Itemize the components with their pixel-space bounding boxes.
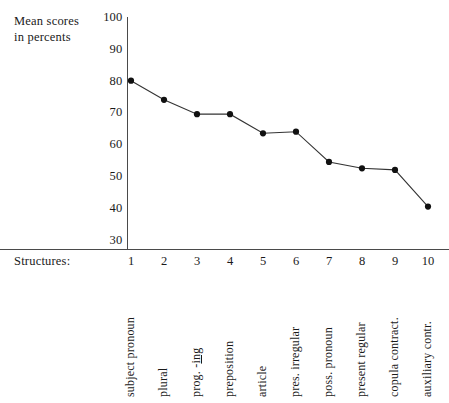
x-axis-tick-label: 8: [350, 255, 374, 268]
data-point: [194, 111, 200, 117]
x-axis-tick-label: 3: [185, 255, 209, 268]
y-axis-tick-label: 40: [97, 202, 123, 215]
x-axis-title: Structures:: [14, 255, 70, 268]
category-label: present regular: [355, 322, 367, 397]
data-point: [293, 129, 299, 135]
x-axis-tick-label: 7: [317, 255, 341, 268]
x-axis-tick-label: 1: [119, 255, 143, 268]
x-axis-tick-label: 9: [383, 255, 407, 268]
x-axis-tick-label: 4: [218, 255, 242, 268]
category-label: subject pronoun: [124, 317, 136, 397]
x-axis-tick-label: 6: [284, 255, 308, 268]
y-axis-tick-label: 100: [97, 11, 123, 24]
data-point: [326, 159, 332, 165]
y-axis-tick-label: 30: [97, 234, 123, 247]
category-label: poss. pronoun: [322, 327, 334, 397]
y-axis-tick-label: 70: [97, 106, 123, 119]
category-label: copula contract.: [388, 317, 400, 397]
category-label: plural: [157, 368, 169, 397]
category-label: article: [256, 366, 268, 397]
data-point: [359, 165, 365, 171]
data-point: [161, 97, 167, 103]
x-axis-tick-label: 10: [416, 255, 440, 268]
series-markers: [128, 78, 431, 210]
y-axis-tick-label: 50: [97, 170, 123, 183]
x-axis-tick-label: 2: [152, 255, 176, 268]
data-point: [425, 203, 431, 209]
category-label: preposition: [223, 341, 235, 397]
y-axis-tick-label: 80: [97, 75, 123, 88]
y-axis-tick-label: 60: [97, 138, 123, 151]
data-point: [392, 167, 398, 173]
x-axis-tick-label: 5: [251, 255, 275, 268]
category-label: auxiliary contr.: [421, 321, 433, 397]
y-axis-tick-label: 90: [97, 43, 123, 56]
line-chart: Mean scores in percents 1009080706050403…: [0, 0, 449, 403]
category-label: pres. irregular: [289, 327, 301, 397]
data-point: [128, 78, 134, 84]
series-line-mean-scores: [131, 81, 428, 207]
data-point: [260, 130, 266, 136]
category-label: prog. -ing: [190, 348, 202, 397]
data-point: [227, 111, 233, 117]
